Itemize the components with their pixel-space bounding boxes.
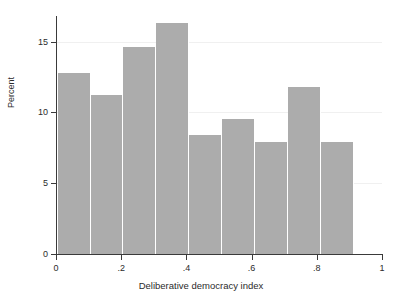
histogram-bar [222, 119, 255, 254]
x-tick-mark [186, 255, 187, 260]
x-tick-mark [56, 255, 57, 260]
x-tick-mark [252, 255, 253, 260]
y-tick-label: 5 [43, 178, 48, 188]
x-tick-label: .4 [183, 263, 191, 274]
histogram-bar [288, 87, 321, 254]
x-tick-mark [121, 255, 122, 260]
y-axis-line [56, 16, 57, 255]
x-tick-label: .8 [313, 263, 321, 274]
x-tick-mark [382, 255, 383, 260]
histogram-bar [58, 73, 91, 254]
histogram-bar [91, 95, 124, 254]
plot-area [56, 16, 382, 254]
y-tick-label: 15 [38, 37, 48, 47]
histogram-bar [156, 23, 189, 254]
histogram-bar [255, 142, 288, 254]
y-axis-title: Percent [6, 77, 16, 108]
gridline [56, 42, 382, 43]
y-tick-label: 10 [38, 107, 48, 117]
histogram-bar [189, 135, 222, 254]
histogram-bar [123, 47, 156, 254]
x-tick-label: 1 [379, 263, 384, 274]
y-tick-label: 0 [43, 249, 48, 259]
x-tick-label: .6 [248, 263, 256, 274]
x-tick-mark [317, 255, 318, 260]
x-axis-title: Deliberative democracy index [0, 280, 402, 291]
y-tick-mark [51, 42, 56, 43]
x-tick-label: 0 [53, 263, 58, 274]
y-tick-mark [51, 112, 56, 113]
y-tick-mark [51, 183, 56, 184]
x-axis-line [56, 254, 383, 255]
histogram-figure: Percent Deliberative democracy index 051… [0, 0, 402, 303]
x-tick-label: .2 [117, 263, 125, 274]
histogram-bar [321, 142, 354, 254]
